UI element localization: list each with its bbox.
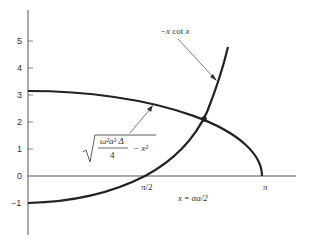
cot-curve-label: −x cot x <box>160 26 190 36</box>
intersection-point <box>201 116 207 122</box>
x-axis-label: x = αa/2 <box>177 193 208 203</box>
y-tick-label-1: 1 <box>17 144 22 154</box>
cot-curve <box>28 47 228 203</box>
svg-text:4: 4 <box>110 150 115 160</box>
sqrt-arrow-line <box>130 108 151 133</box>
y-tick-label-5: 5 <box>17 36 22 46</box>
x-tick-label-pi: π <box>263 182 268 192</box>
cot-arrow-line <box>178 39 215 79</box>
y-tick-label-4: 4 <box>17 63 22 73</box>
svg-text:− x²: − x² <box>133 143 148 153</box>
y-tick-label-3: 3 <box>17 90 22 100</box>
sqrt-curve-label: ω²a² Δ 4 − x² <box>83 135 156 162</box>
sqrt-curve <box>28 91 262 176</box>
sqrt-arrowhead-icon <box>147 105 153 112</box>
y-tick-label-minus-1: −1 <box>11 198 21 208</box>
y-tick-label-2: 2 <box>17 117 22 127</box>
svg-text:ω²a² Δ: ω²a² Δ <box>100 136 124 146</box>
y-tick-label-0: 0 <box>17 171 22 181</box>
x-tick-label-half-pi: π/2 <box>141 182 153 192</box>
chart-figure: 5 4 3 2 1 0 −1 π/2 π x = αa/2 −x cot x ω… <box>0 0 311 243</box>
y-ticks <box>28 41 33 203</box>
